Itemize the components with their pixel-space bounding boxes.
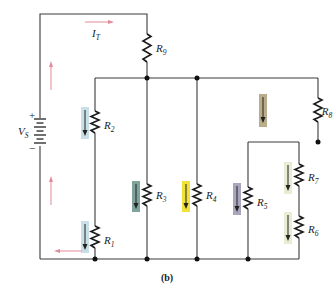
resistor-r3 (143, 184, 151, 206)
resistor-r6 (295, 216, 303, 238)
label-r2: R2 (103, 119, 115, 134)
circuit-diagram: + − VS IT R9 R2 R1 R3 R4 R8 R5 R7 R6 (b) (0, 0, 334, 293)
source-voltage-label: VS (18, 125, 29, 140)
label-r9: R9 (155, 42, 167, 57)
resistor-r2 (91, 111, 99, 133)
resistor-r7 (295, 164, 303, 186)
label-r7: R7 (307, 171, 319, 186)
resistor-r5 (244, 187, 252, 209)
label-r1: R1 (103, 234, 114, 249)
resistor-r9 (143, 34, 151, 62)
battery-source (34, 119, 46, 143)
battery-plus-sign: + (29, 109, 35, 121)
total-current-label: IT (91, 27, 101, 42)
label-r3: R3 (155, 189, 167, 204)
label-r4: R4 (205, 189, 217, 204)
label-r5: R5 (256, 196, 268, 211)
label-r8: R8 (321, 105, 333, 120)
branch-current-highlights (81, 94, 292, 253)
resistor-r1 (91, 226, 99, 248)
battery-minus-sign: − (29, 142, 35, 154)
figure-caption: (b) (161, 272, 173, 284)
label-r6: R6 (307, 223, 319, 238)
resistor-r4 (193, 184, 201, 206)
